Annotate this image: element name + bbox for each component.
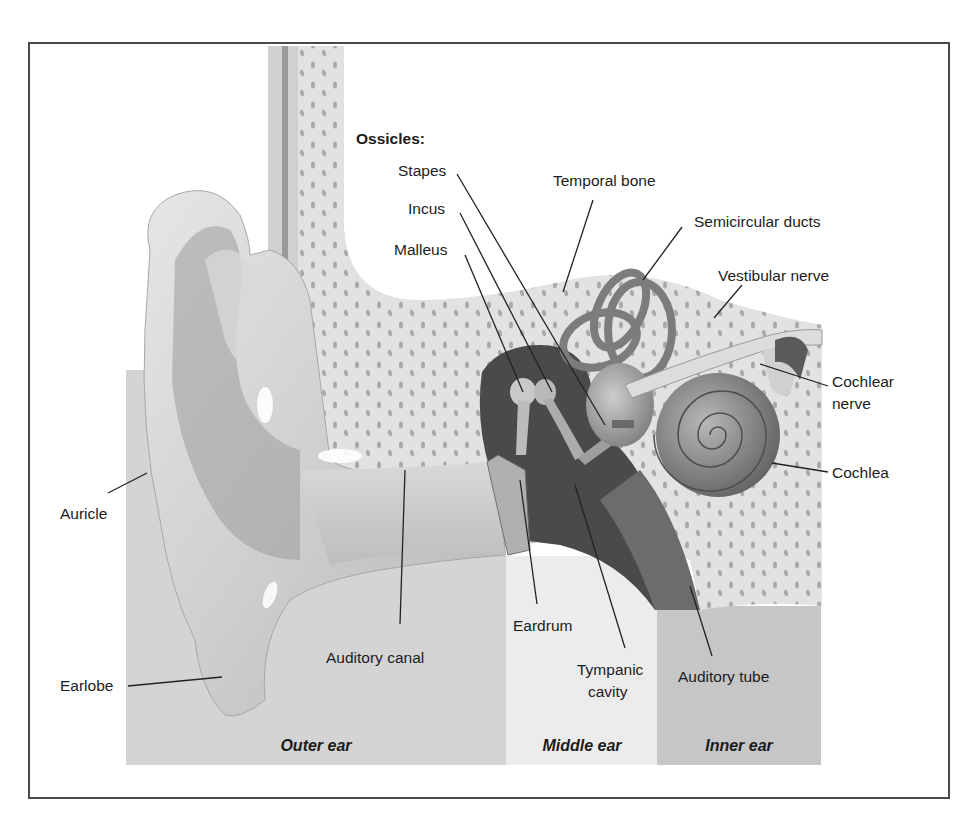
label-malleus: Malleus <box>394 241 447 259</box>
label-auricle: Auricle <box>60 505 107 523</box>
vestibule-shape <box>586 363 654 447</box>
label-eardrum: Eardrum <box>513 617 572 635</box>
label-vestibular-nerve: Vestibular nerve <box>718 267 829 285</box>
label-tympanic-cavity-line2: cavity <box>588 683 628 701</box>
label-incus: Incus <box>408 200 445 218</box>
ear-anatomy-illustration <box>0 0 976 823</box>
label-auditory-tube: Auditory tube <box>678 668 769 686</box>
label-stapes: Stapes <box>398 162 446 180</box>
section-label-outer-ear: Outer ear <box>126 737 506 755</box>
label-tympanic-cavity-line1: Tympanic <box>577 661 643 679</box>
label-earlobe: Earlobe <box>60 677 113 695</box>
label-cochlear-nerve-line1: Cochlear <box>832 373 894 391</box>
label-cochlear-nerve-line2: nerve <box>832 395 871 413</box>
label-semicircular-ducts: Semicircular ducts <box>694 213 821 231</box>
label-temporal-bone: Temporal bone <box>553 172 656 190</box>
section-label-inner-ear: Inner ear <box>657 737 821 755</box>
ossicles-heading: Ossicles: <box>356 130 425 148</box>
label-cochlea: Cochlea <box>832 464 889 482</box>
section-label-middle-ear: Middle ear <box>506 737 658 755</box>
label-auditory-canal: Auditory canal <box>326 649 424 667</box>
